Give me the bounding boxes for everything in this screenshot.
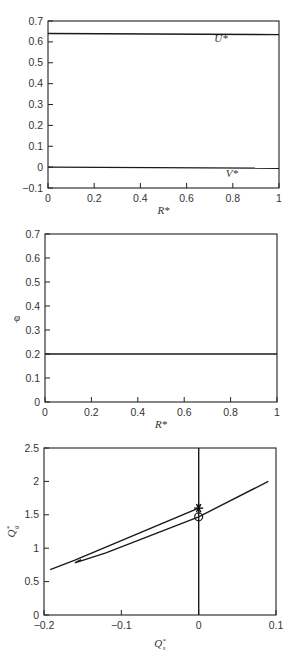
- y-tick-label: 0.1: [25, 372, 40, 384]
- y-tick-label: 0.7: [28, 15, 43, 27]
- chart-panel-1: −0.100.10.20.30.40.50.60.700.20.40.60.81…: [22, 15, 282, 217]
- x-tick-label: −0.1: [111, 619, 132, 631]
- series-line-trajectory-upper: [50, 508, 199, 569]
- x-tick-label: 0.4: [133, 192, 148, 204]
- annotation-u-star: U*: [214, 32, 228, 44]
- series-line-u-: [48, 34, 279, 35]
- y-tick-label: 1: [33, 542, 39, 554]
- figure: −0.100.10.20.30.40.50.60.700.20.40.60.81…: [0, 0, 293, 661]
- y-axis-label-sub: g: [12, 525, 20, 529]
- y-tick-label: 0.2: [28, 119, 43, 131]
- x-tick-label: 0.6: [179, 192, 194, 204]
- series-line-trajectory-lower: [75, 481, 268, 563]
- x-tick-label: 0.8: [223, 406, 238, 418]
- x-tick-label: 0.2: [84, 406, 99, 418]
- y-tick-label: 0.1: [28, 140, 43, 152]
- y-tick-label: 0.4: [25, 300, 40, 312]
- x-tick-label: 1: [274, 406, 280, 418]
- y-tick-label: 0.7: [25, 228, 40, 240]
- y-tick-label: 0.5: [25, 276, 40, 288]
- x-tick-label: 0: [45, 192, 51, 204]
- x-tick-label: 0: [196, 619, 202, 631]
- x-tick-label: 0: [42, 406, 48, 418]
- y-tick-label: 2.5: [24, 442, 39, 454]
- y-tick-label: 0.5: [24, 575, 39, 587]
- x-tick-label: 0.8: [225, 192, 240, 204]
- annotation-v-star: V*: [226, 167, 239, 179]
- x-axis-label-sub: s: [163, 644, 166, 652]
- plot-frame: [45, 234, 277, 402]
- x-tick-label: 0.2: [87, 192, 102, 204]
- x-axis-label: R*: [156, 204, 170, 216]
- y-tick-label: −0.1: [22, 182, 43, 194]
- y-axis-label: φ: [14, 311, 20, 323]
- y-tick-label: 0: [34, 396, 40, 408]
- chart-panel-2: 00.10.20.30.40.50.60.700.20.40.60.81R*φ: [14, 228, 280, 431]
- y-axis-label: Q*g: [5, 525, 20, 537]
- x-tick-label: −0.2: [34, 619, 55, 631]
- y-tick-label: 0: [37, 161, 43, 173]
- series-line-v-: [48, 167, 279, 168]
- x-axis-label: R*: [154, 418, 168, 430]
- y-tick-label: 0.5: [28, 56, 43, 68]
- star-marker: [194, 504, 203, 513]
- y-tick-label: 1.5: [24, 508, 39, 520]
- y-tick-label: 2: [33, 475, 39, 487]
- x-tick-label: 1: [276, 192, 282, 204]
- x-axis-label: Q*s: [154, 637, 166, 652]
- y-tick-label: 0.3: [28, 98, 43, 110]
- y-tick-label: 0.6: [28, 35, 43, 47]
- x-tick-label: 0.4: [130, 406, 145, 418]
- chart-panel-3: 00.511.522.5−0.2−0.100.1Q*sQ*g: [5, 442, 283, 653]
- y-tick-label: 0.6: [25, 252, 40, 264]
- x-tick-label: 0.6: [177, 406, 192, 418]
- y-tick-label: 0.4: [28, 77, 43, 89]
- y-tick-label: 0.3: [25, 324, 40, 336]
- plot-frame: [48, 21, 279, 188]
- x-tick-label: 0.1: [269, 619, 284, 631]
- y-tick-label: 0.2: [25, 348, 40, 360]
